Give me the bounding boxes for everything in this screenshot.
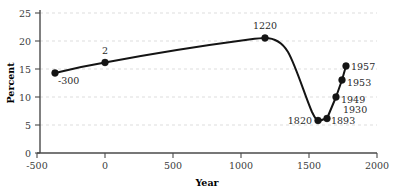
marker-1220[interactable] (262, 35, 269, 42)
x-tick-label-m500: -500 (26, 160, 47, 171)
point-label-1820: 1820 (288, 115, 312, 126)
y-tick-labels: 0 5 10 15 20 25 (19, 8, 31, 159)
point-label-2: 2 (102, 45, 108, 56)
y-tick-label-20: 20 (19, 36, 31, 47)
x-tick-labels: -500 0 500 1000 1500 2000 (26, 160, 389, 171)
y-tick-label-15: 15 (19, 64, 31, 75)
y-tick-label-10: 10 (19, 92, 31, 103)
y-tick-label-0: 0 (25, 148, 31, 159)
point-label-1930: 1930 (343, 104, 367, 115)
marker-1957[interactable] (343, 63, 350, 70)
marker-2[interactable] (102, 59, 109, 66)
gridlines (40, 13, 377, 125)
point-label-1893: 1893 (331, 115, 355, 126)
point-label-1957: 1957 (351, 61, 375, 72)
axes (37, 10, 377, 153)
chart-container: 0 5 10 15 20 25 -500 0 500 1000 1500 200… (0, 0, 393, 192)
point-label-1953: 1953 (347, 77, 371, 88)
point-label-1949: 1949 (341, 94, 365, 105)
y-axis-title: Percent (5, 62, 16, 104)
marker-1820[interactable] (315, 117, 322, 124)
marker-1930[interactable] (333, 94, 340, 101)
y-tick-label-5: 5 (25, 120, 31, 131)
point-labels: -300 2 1220 1820 1893 1930 1949 1953 195… (58, 20, 375, 126)
x-tick-label-500: 500 (164, 160, 182, 171)
marker-1953[interactable] (339, 77, 346, 84)
x-tick-label-1500: 1500 (297, 160, 321, 171)
y-tick-label-25: 25 (19, 8, 31, 19)
point-label--300: -300 (58, 75, 79, 86)
point-label-1220: 1220 (253, 20, 277, 31)
x-tickmarks (37, 153, 377, 158)
y-tickmarks (35, 13, 40, 153)
x-tick-label-1000: 1000 (229, 160, 253, 171)
marker-1893[interactable] (324, 115, 331, 122)
line-chart: 0 5 10 15 20 25 -500 0 500 1000 1500 200… (0, 0, 393, 192)
x-axis-title: Year (194, 177, 219, 188)
series-curve-main (55, 38, 327, 121)
data-markers (52, 35, 350, 124)
x-tick-label-0: 0 (102, 160, 108, 171)
x-tick-label-2000: 2000 (365, 160, 389, 171)
